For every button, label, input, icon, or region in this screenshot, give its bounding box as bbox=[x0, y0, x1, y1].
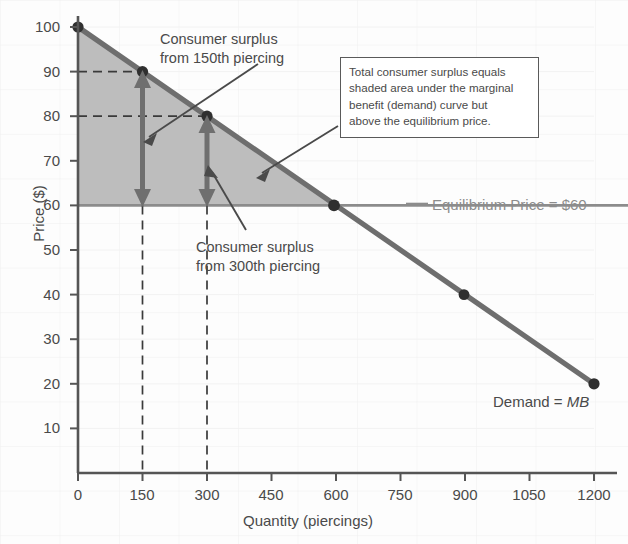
y-tick-label: 80 bbox=[20, 107, 60, 124]
annotation-line-2: from 300th piercing bbox=[196, 257, 320, 276]
annotation-line-2: from 150th piercing bbox=[160, 49, 284, 68]
y-tick-label: 40 bbox=[20, 286, 60, 303]
x-axis-title: Quantity (piercings) bbox=[243, 512, 373, 529]
y-tick-label: 10 bbox=[20, 419, 60, 436]
y-tick-label: 30 bbox=[20, 330, 60, 347]
x-tick-label: 150 bbox=[112, 486, 172, 503]
x-tick-label: 900 bbox=[435, 486, 495, 503]
demand-curve-label: Demand = MB bbox=[493, 393, 589, 410]
equilibrium-price-label: Equilibrium Price = $60 bbox=[432, 196, 587, 213]
textbox-line-4: above the equilibrium price. bbox=[349, 113, 531, 129]
y-tick-label: 100 bbox=[20, 18, 60, 35]
textbox-line-3: benefit (demand) curve but bbox=[349, 97, 531, 113]
y-axis-title: Price ($) bbox=[30, 154, 47, 274]
annotation-consumer-surplus-150: Consumer surplus from 150th piercing bbox=[160, 30, 284, 68]
x-tick-label: 1050 bbox=[499, 486, 559, 503]
y-tick-label: 90 bbox=[20, 63, 60, 80]
y-tick-label: 20 bbox=[20, 375, 60, 392]
chart-canvas: 100 90 80 70 60 50 40 30 20 10 0 150 300… bbox=[0, 0, 628, 544]
x-tick-label: 600 bbox=[306, 486, 366, 503]
textbox-line-2: shaded area under the marginal bbox=[349, 80, 531, 96]
annotation-line-1: Consumer surplus bbox=[160, 30, 284, 49]
annotation-line-1: Consumer surplus bbox=[196, 238, 320, 257]
demand-label-prefix: Demand = bbox=[493, 393, 567, 410]
x-tick-label: 450 bbox=[241, 486, 301, 503]
demand-label-italic: MB bbox=[567, 393, 590, 410]
x-tick-label: 750 bbox=[370, 486, 430, 503]
textbox-line-1: Total consumer surplus equals bbox=[349, 64, 531, 80]
x-tick-label: 1200 bbox=[564, 486, 624, 503]
x-tick-label: 0 bbox=[48, 486, 108, 503]
annotation-consumer-surplus-300: Consumer surplus from 300th piercing bbox=[196, 238, 320, 276]
annotation-total-surplus-box: Total consumer surplus equals shaded are… bbox=[340, 57, 539, 138]
x-tick-label: 300 bbox=[177, 486, 237, 503]
